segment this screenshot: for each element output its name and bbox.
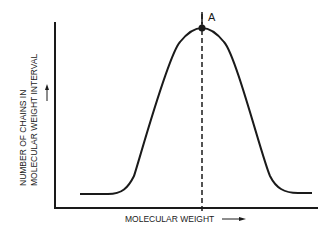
peak-point xyxy=(199,25,206,32)
x-axis-label: MOLECULAR WEIGHT xyxy=(125,214,214,224)
x-axis-arrow-icon xyxy=(222,217,246,221)
y-axis-label-line1: NUMBER OF CHAINS IN xyxy=(18,90,28,186)
y-axis-label-line2: MOLECULAR WEIGHT INTERVAL xyxy=(29,53,39,186)
peak-label: A xyxy=(208,11,216,23)
molecular-weight-distribution-diagram: A NUMBER OF CHAINS IN MOLECULAR WEIGHT I… xyxy=(0,0,335,235)
distribution-curve xyxy=(80,28,312,194)
y-axis-arrow-icon xyxy=(45,84,49,101)
